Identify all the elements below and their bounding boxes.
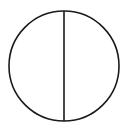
diagram-canvas — [0, 0, 128, 128]
